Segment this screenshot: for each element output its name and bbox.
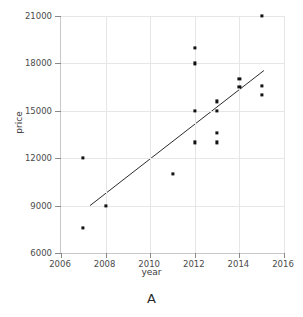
data-point xyxy=(82,157,85,160)
gridline-vertical xyxy=(150,16,151,253)
data-point xyxy=(260,14,263,17)
panel-caption: A xyxy=(0,292,303,305)
data-point xyxy=(216,100,219,103)
data-point xyxy=(260,84,263,87)
x-axis-title: year xyxy=(0,268,303,277)
data-point xyxy=(238,78,241,81)
data-point xyxy=(193,109,196,112)
y-axis-tick xyxy=(55,111,61,112)
data-point xyxy=(171,172,174,175)
data-point xyxy=(216,109,219,112)
data-point xyxy=(104,204,107,207)
x-axis-tick-label: 2016 xyxy=(263,260,303,269)
trend-line xyxy=(61,16,284,253)
y-axis-tick-label: 9000 xyxy=(0,202,52,211)
gridline-horizontal xyxy=(61,158,284,159)
y-axis-tick-label: 18000 xyxy=(0,59,52,68)
y-axis-tick xyxy=(55,206,61,207)
x-axis-tick xyxy=(284,253,285,258)
data-point xyxy=(82,226,85,229)
gridline-horizontal xyxy=(61,63,284,64)
y-axis-tick-label: 15000 xyxy=(0,107,52,116)
gridline-horizontal xyxy=(61,16,284,17)
y-axis-tick-label: 6000 xyxy=(0,249,52,258)
x-axis-tick-label: 2010 xyxy=(129,260,169,269)
y-axis-tick xyxy=(55,16,61,17)
data-point xyxy=(193,62,196,65)
data-point xyxy=(260,93,263,96)
data-point xyxy=(216,141,219,144)
data-point xyxy=(216,131,219,134)
x-axis-tick xyxy=(195,253,196,258)
gridline-vertical xyxy=(284,16,285,253)
y-axis-tick xyxy=(55,63,61,64)
x-axis-tick-label: 2006 xyxy=(40,260,80,269)
x-axis-tick-label: 2008 xyxy=(85,260,125,269)
gridline-horizontal xyxy=(61,206,284,207)
x-axis-tick xyxy=(150,253,151,258)
x-axis-tick xyxy=(239,253,240,258)
data-point xyxy=(193,46,196,49)
x-axis-tick xyxy=(61,253,62,258)
x-axis-tick-label: 2012 xyxy=(174,260,214,269)
y-axis-tick-label: 21000 xyxy=(0,12,52,21)
figure-panel-a: price year A 600090001200015000180002100… xyxy=(0,0,303,317)
y-axis-tick xyxy=(55,158,61,159)
x-axis-tick xyxy=(106,253,107,258)
gridline-vertical xyxy=(106,16,107,253)
plot-area xyxy=(60,16,284,254)
gridline-vertical xyxy=(239,16,240,253)
gridline-horizontal xyxy=(61,111,284,112)
y-axis-tick-label: 12000 xyxy=(0,154,52,163)
gridline-vertical xyxy=(195,16,196,253)
data-point xyxy=(193,141,196,144)
data-point xyxy=(238,86,241,89)
x-axis-tick-label: 2014 xyxy=(218,260,258,269)
